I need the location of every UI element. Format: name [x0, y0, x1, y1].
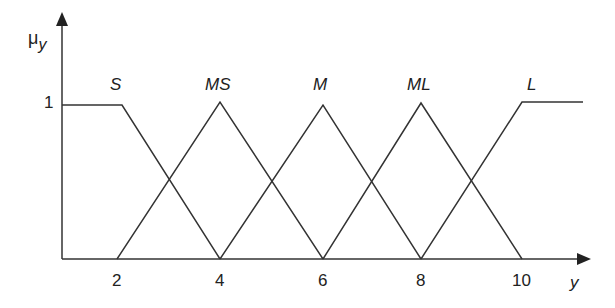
set-l-curve [421, 102, 583, 259]
set-label-s: S [110, 76, 121, 93]
diagram-canvas [0, 0, 615, 308]
set-label-m: M [313, 76, 327, 93]
x-tick-2: 2 [112, 272, 121, 289]
x-axis-arrow-icon [577, 253, 591, 265]
set-ms-curve [117, 102, 323, 259]
set-ml-curve [323, 103, 522, 259]
x-tick-6: 6 [318, 272, 327, 289]
set-label-l: L [527, 76, 536, 93]
set-m-curve [220, 105, 421, 259]
y-axis-label: μy [28, 29, 46, 47]
x-tick-8: 8 [416, 272, 425, 289]
set-label-ml: ML [407, 76, 431, 93]
set-s-curve [62, 105, 220, 259]
y-tick-1: 1 [44, 94, 53, 111]
x-tick-4: 4 [215, 272, 224, 289]
membership-function-diagram: μy 1 S MS M ML L 2 4 6 8 10 y [0, 0, 615, 308]
x-axis-label: y [570, 274, 579, 291]
x-tick-10: 10 [512, 272, 531, 289]
set-label-ms: MS [205, 76, 231, 93]
y-axis-arrow-icon [56, 12, 68, 26]
